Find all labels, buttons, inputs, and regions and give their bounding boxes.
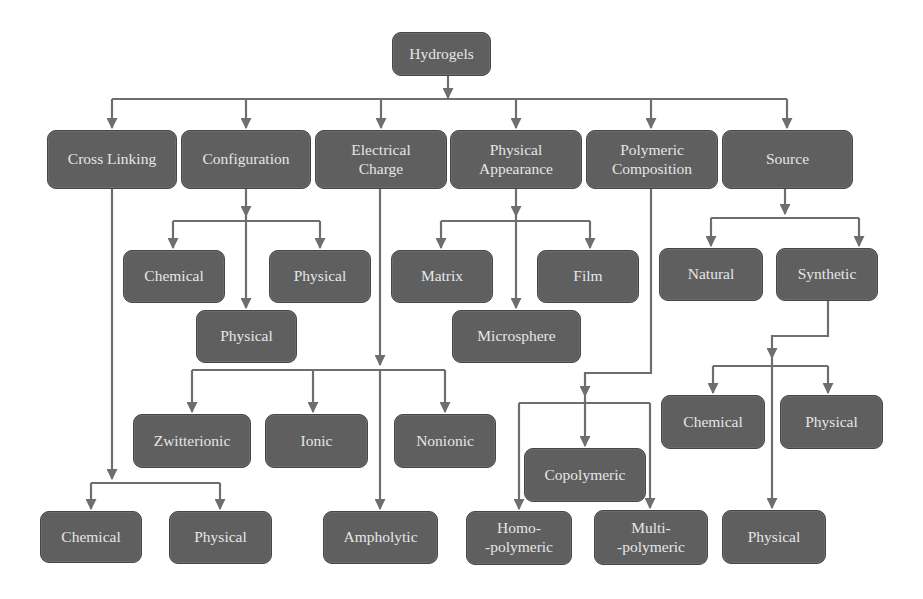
node-configuration-physical-right: Physical — [269, 250, 371, 303]
node-charge-ionic: Ionic — [265, 414, 368, 468]
node-configuration: Configuration — [181, 130, 311, 189]
node-composition-multipolymeric: Multi- -polymeric — [594, 510, 708, 565]
node-crosslinking-physical: Physical — [169, 511, 272, 564]
node-physical-appearance: Physical Appearance — [450, 130, 582, 189]
node-composition-homopolymeric: Homo- -polymeric — [466, 511, 572, 565]
node-source-natural: Natural — [659, 248, 763, 301]
node-cross-linking: Cross Linking — [47, 130, 177, 189]
node-source: Source — [722, 130, 853, 189]
node-appearance-film: Film — [537, 250, 639, 303]
node-charge-zwitterionic: Zwitterionic — [133, 414, 251, 468]
node-synthetic-chemical: Chemical — [661, 395, 765, 449]
node-charge-nonionic: Nonionic — [394, 414, 496, 468]
node-appearance-matrix: Matrix — [391, 250, 493, 303]
node-configuration-chemical: Chemical — [123, 250, 225, 303]
node-synthetic-physical-bottom: Physical — [722, 510, 826, 564]
node-synthetic-physical-right: Physical — [780, 395, 883, 449]
node-charge-ampholytic: Ampholytic — [323, 511, 438, 564]
edge-synthetic-trunk — [772, 301, 828, 358]
node-source-synthetic: Synthetic — [776, 248, 878, 301]
node-configuration-physical-center: Physical — [196, 310, 297, 363]
hydrogel-classification-diagram: Hydrogels Cross Linking Configuration El… — [0, 0, 923, 599]
node-electrical-charge: Electrical Charge — [315, 130, 447, 189]
node-appearance-microsphere: Microsphere — [452, 310, 581, 363]
node-composition-copolymeric: Copolymeric — [524, 448, 646, 502]
node-crosslinking-chemical: Chemical — [40, 511, 142, 563]
node-hydrogels: Hydrogels — [392, 32, 491, 76]
node-polymeric-composition: Polymeric Composition — [586, 130, 718, 189]
